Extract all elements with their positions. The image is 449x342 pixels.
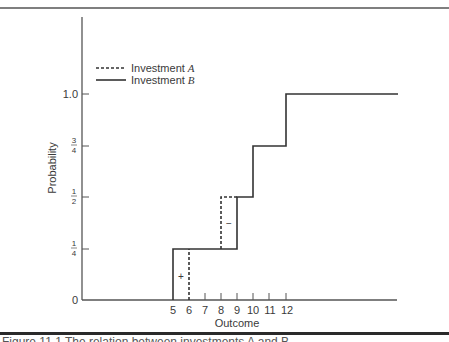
legend: Investment A Investment B xyxy=(96,62,195,86)
annotation-minus: − xyxy=(226,218,232,229)
x-tick-label: 6 xyxy=(186,304,192,316)
svg-text:4: 4 xyxy=(72,146,77,155)
y-tick-label-1-4: 1 4 xyxy=(71,239,77,258)
legend-label-a: Investment A xyxy=(131,62,195,74)
svg-text:1: 1 xyxy=(72,239,77,248)
x-axis-label: Outcome xyxy=(215,317,260,329)
y-tick-label-3-4: 3 4 xyxy=(71,136,77,155)
x-tick-label: 8 xyxy=(218,304,224,316)
y-ticks xyxy=(82,94,89,249)
step-chart: 1.0 0 3 4 1 2 1 4 Probability 5 6 7 8 9 … xyxy=(0,0,449,342)
x-tick-label: 5 xyxy=(170,304,176,316)
x-tick-label: 11 xyxy=(264,304,275,316)
series-investment-b xyxy=(173,94,398,300)
svg-text:4: 4 xyxy=(72,249,77,258)
x-tick-label: 12 xyxy=(281,304,293,316)
y-tick-label-1-2: 1 2 xyxy=(71,187,77,206)
annotation-plus: + xyxy=(178,271,184,282)
bottom-border xyxy=(0,332,449,335)
x-tick-label: 10 xyxy=(247,304,259,316)
y-tick-label-0: 0 xyxy=(72,294,78,306)
legend-label-b: Investment B xyxy=(131,74,195,86)
x-tick-label: 9 xyxy=(234,304,240,316)
y-axis-label: Probability xyxy=(46,142,58,194)
x-ticks xyxy=(205,293,286,300)
svg-text:3: 3 xyxy=(72,136,77,145)
figure-caption: Figure 11.1 The relation between investm… xyxy=(0,336,449,342)
svg-text:1: 1 xyxy=(72,187,77,196)
figure-frame: 1.0 0 3 4 1 2 1 4 Probability 5 6 7 8 9 … xyxy=(0,0,449,342)
x-tick-label: 7 xyxy=(202,304,208,316)
x-tick-labels: 5 6 7 8 9 10 11 12 xyxy=(170,304,293,316)
svg-text:2: 2 xyxy=(72,197,77,206)
y-tick-label-1: 1.0 xyxy=(63,88,78,100)
